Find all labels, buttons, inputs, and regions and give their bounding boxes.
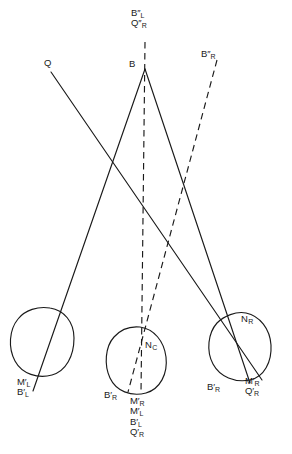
label-node-right-base: N: [241, 313, 248, 324]
dashed-ray-from-bpp-r: [128, 60, 217, 392]
label-c-qp-r-sub: R: [139, 431, 144, 438]
label-c-bp-l-sub: L: [138, 421, 142, 428]
label-mp-l-sub: L: [27, 381, 31, 388]
label-bpp-l-qpp-r: B′′L Q′′R: [131, 8, 147, 29]
label-center-bp-r-sub: R: [112, 394, 117, 401]
label-center-eye-bp-r: B′R: [104, 390, 117, 400]
label-center-bp-r-base: B′: [104, 389, 112, 400]
label-q-origin: Q: [44, 58, 52, 68]
label-node-right-sub: R: [248, 318, 253, 325]
label-q-origin-text: Q: [44, 57, 52, 68]
label-c-mp-l-sub: L: [140, 410, 144, 417]
label-bp-l-base: B′: [17, 386, 25, 397]
label-r-qp-r-sub: R: [254, 390, 259, 397]
label-right-eye-bp-r: B′R: [207, 382, 220, 392]
label-node-center-sub: C: [152, 344, 157, 351]
ray-q-to-right-eye: [51, 72, 262, 380]
ray-b-to-left-eye: [33, 69, 145, 391]
label-apex-b-text: B: [129, 58, 135, 69]
label-r-mp-r-sub: R: [255, 380, 260, 387]
ray-diagram-figure: B′′L Q′′R B Q B′′R NC NR M′L B′L B′R: [0, 0, 292, 454]
label-bpp-l-sub: L: [141, 12, 145, 19]
label-bpp-r-sub: R: [211, 53, 216, 60]
ray-b-to-right-eye: [145, 69, 250, 383]
label-node-center: NC: [145, 340, 157, 350]
label-qpp-r-base: Q′′: [131, 17, 141, 28]
label-r-qp-r-base: Q′: [245, 385, 254, 396]
label-c-mp-r-sub: R: [140, 400, 145, 407]
label-bpp-r-base: B′′: [201, 48, 210, 59]
label-left-eye-points: M′L B′L: [17, 377, 30, 398]
eye-circle-right: [209, 313, 271, 381]
label-r-bp-r-sub: R: [215, 386, 220, 393]
label-right-eye-points: M′R Q′R: [245, 376, 259, 397]
label-node-center-base: N: [145, 339, 152, 350]
label-r-bp-r-base: B′: [207, 381, 215, 392]
label-center-eye-points: M′R M′L B′L Q′R: [130, 396, 144, 437]
label-node-right: NR: [241, 314, 253, 324]
label-bpp-r: B′′R: [201, 49, 215, 59]
label-apex-b: B: [129, 59, 135, 69]
label-qpp-r-sub: R: [142, 22, 147, 29]
label-bp-l-sub: L: [25, 391, 29, 398]
